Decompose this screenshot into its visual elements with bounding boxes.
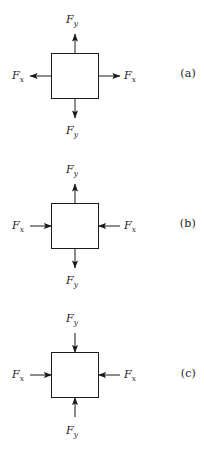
panel-c: Fy Fy Fx Fx (c) [0,299,204,459]
force-label-bottom-c: Fy [66,425,78,436]
force-label-top-b: Fy [66,164,78,175]
force-label-left-c: Fx [12,369,24,380]
force-label-top-a: Fy [66,14,78,25]
force-label-left-b: Fx [12,220,24,231]
panel-b: Fy Fy Fx Fx (b) [0,150,204,305]
element-square-a [52,54,99,99]
force-diagram-figure: Fy Fy Fx Fx (a) [0,0,204,459]
element-square-b [52,204,99,249]
force-label-right-c: Fx [124,369,136,380]
panel-caption-a: (a) [180,67,196,80]
force-label-right-b: Fx [124,220,136,231]
panel-caption-b: (b) [180,217,196,230]
force-label-left-a: Fx [12,70,24,81]
force-label-bottom-b: Fy [66,275,78,286]
element-square-c [52,353,99,398]
panel-caption-c: (c) [181,367,196,380]
force-label-top-c: Fy [66,313,78,324]
force-label-bottom-a: Fy [66,125,78,136]
panel-a: Fy Fy Fx Fx (a) [0,0,204,155]
force-label-right-a: Fx [124,70,136,81]
